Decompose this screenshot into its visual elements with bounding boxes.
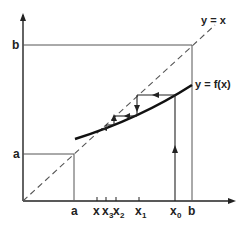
x-axis-a-label: a <box>71 204 78 218</box>
x2-subscript: 2 <box>120 211 125 220</box>
identity-line-label: y = x <box>201 14 227 26</box>
y-axis-a-label: a <box>13 147 20 161</box>
function-curve-label: y = f(x) <box>195 78 231 90</box>
arrow-up-icon <box>172 145 178 153</box>
cobweb-path <box>101 92 178 201</box>
x3-label: x <box>102 204 109 218</box>
arrow-left-icon <box>152 92 159 98</box>
x1-subscript: 1 <box>142 211 147 220</box>
y-axis-b-label: b <box>12 38 19 52</box>
arrow-up-icon <box>111 114 117 121</box>
x-axis-arrow-icon <box>228 198 236 204</box>
x0-label: x <box>170 204 177 218</box>
axes <box>20 13 236 204</box>
x-fixed-label: x <box>93 204 100 218</box>
arrow-down-icon <box>134 105 140 112</box>
y-axis-arrow-icon <box>20 13 26 21</box>
x1-label: x <box>135 204 142 218</box>
x2-label: x <box>113 204 120 218</box>
cobweb-diagram: y = x y = f(x) b a a x x 3 x 2 x 1 x 0 b <box>0 0 249 225</box>
x0-subscript: 0 <box>177 211 182 220</box>
arrow-left-icon <box>124 113 130 119</box>
x-axis-b-label: b <box>188 204 195 218</box>
identity-line <box>23 25 215 201</box>
